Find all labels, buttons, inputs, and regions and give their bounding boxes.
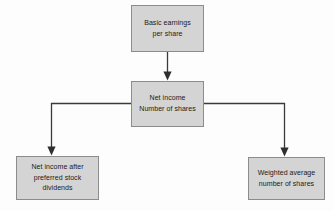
connector-basic-eps-to-net-income	[163, 52, 171, 81]
node-net-income-after-preferred-stock-dividends: Net income after preferred stock dividen…	[16, 156, 99, 200]
node-label: Weighted average number of shares	[256, 168, 318, 190]
node-weighted-average-number-of-shares: Weighted average number of shares	[248, 157, 325, 200]
node-net-income-over-number-of-shares: Net income Number of shares	[131, 81, 204, 127]
node-basic-earnings-per-share: Basic earnings per share	[131, 5, 204, 52]
node-label: Net income Number of shares	[137, 93, 197, 115]
node-label: Basic earnings per share	[142, 18, 193, 40]
connector-net-income-to-denominator	[204, 104, 289, 157]
connector-net-income-to-numerator	[47, 104, 131, 156]
node-label: Net income after preferred stock dividen…	[29, 162, 85, 195]
diagram-canvas: Basic earnings per share Net income Numb…	[0, 0, 334, 211]
